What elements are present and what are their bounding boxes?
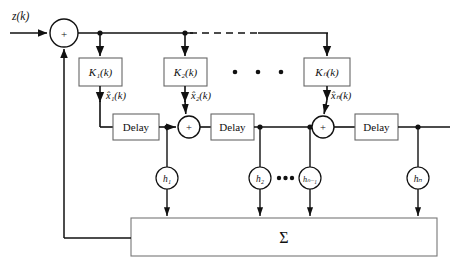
- tap-row-ellipsis-dot-2: [283, 176, 287, 180]
- state-estimate-x2-label: x̂₂(k): [190, 90, 211, 102]
- adder-1-label: +: [186, 122, 192, 133]
- adder-2-label: +: [320, 122, 326, 133]
- delay-1-label: Delay: [123, 121, 150, 133]
- gain-row-ellipsis-dot-1: [233, 70, 238, 75]
- gain-row-ellipsis-dot-2: [256, 70, 261, 75]
- gain-k1-label: K₁(k): [88, 66, 113, 79]
- block-diagram-figure: z(k) + K₁(k) K₂(k) Kₙ(k) x̂₁(k) x̂₂(k): [0, 0, 454, 268]
- delay-3-label: Delay: [363, 121, 390, 133]
- summation-label: Σ: [279, 229, 288, 246]
- gain-row-ellipsis-dot-3: [279, 70, 284, 75]
- tap-hn-label: hₙ: [414, 174, 423, 184]
- delay-2-label: Delay: [219, 121, 246, 133]
- adder-input-label: +: [61, 28, 67, 40]
- input-signal-label: z(k): [11, 10, 29, 23]
- tap-hn-1-label: hₙ₋₁: [303, 175, 317, 184]
- kn-to-adder2-line: [324, 100, 327, 114]
- tap-h2-label: h₂: [256, 174, 265, 184]
- tap-row-ellipsis-dot-3: [290, 176, 294, 180]
- gain-k2-label: K₂(k): [173, 66, 198, 79]
- k2-to-adder1-line: [185, 101, 186, 114]
- diagram-canvas: z(k) + K₁(k) K₂(k) Kₙ(k) x̂₁(k) x̂₂(k): [0, 0, 454, 268]
- state-estimate-xn-label: x̂ₙ(k): [330, 90, 352, 102]
- state-estimate-x1-label: x̂₁(k): [105, 90, 126, 102]
- gain-kn-label: Kₙ(k): [314, 66, 339, 79]
- tap-h1-label: h₁: [163, 174, 171, 184]
- tap-row-ellipsis-dot-1: [277, 176, 281, 180]
